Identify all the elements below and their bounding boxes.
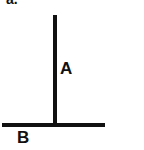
panel-label: a.: [6, 0, 18, 7]
label-b: B: [17, 129, 29, 146]
label-a: A: [60, 60, 72, 77]
vertical-line-a: [53, 15, 57, 126]
horizontal-line-b: [2, 123, 105, 127]
